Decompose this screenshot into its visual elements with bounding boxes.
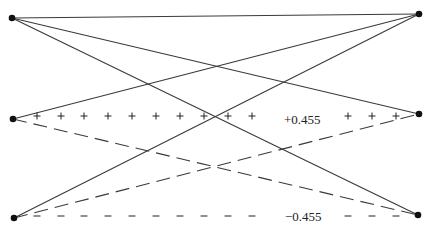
node-dot-mid-right (416, 111, 423, 118)
solid-edge (12, 14, 419, 18)
solid-edge (13, 14, 419, 119)
dashed-edges (13, 114, 419, 218)
node-dot-bottom-left (11, 215, 18, 222)
node-dot-bottom-right (415, 212, 422, 219)
dashed-edge (13, 119, 418, 215)
solid-edge (14, 14, 419, 218)
node-dot-top-right (416, 11, 423, 18)
solid-edge (12, 18, 419, 114)
negative-label: −0.455 (285, 209, 322, 224)
dashed-edge (14, 114, 419, 218)
positive-label: +0.455 (284, 112, 321, 127)
dipole-line-diagram: +0.455 −0.455 (0, 0, 431, 230)
node-dot-mid-left (10, 116, 17, 123)
node-dot-top-left (9, 15, 16, 22)
solid-edges (12, 14, 419, 218)
